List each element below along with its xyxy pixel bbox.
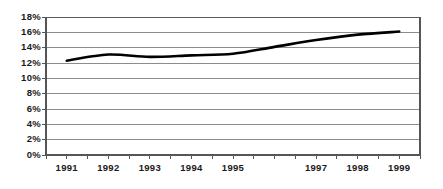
plot-border	[46, 17, 420, 155]
data-series-line	[67, 32, 399, 61]
x-axis-ticks	[46, 155, 420, 159]
line-chart: 0%2%4%6%8%10%12%14%16%18% 19911992199319…	[0, 0, 443, 189]
grid-lines	[46, 17, 420, 155]
series-line	[67, 32, 399, 61]
plot-area	[0, 0, 443, 189]
